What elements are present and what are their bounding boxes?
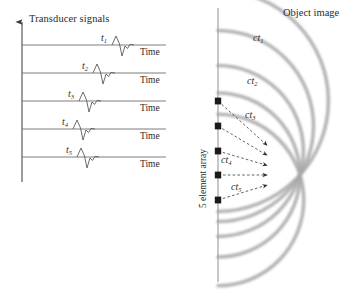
t-subscript: 2 bbox=[85, 65, 88, 72]
signal-pulse bbox=[112, 36, 134, 56]
ct-subscript: 4 bbox=[228, 159, 231, 166]
time-marker-label-1: t1 bbox=[101, 33, 107, 43]
ct-subscript: 3 bbox=[252, 114, 255, 121]
transducer-signals-svg bbox=[0, 0, 185, 290]
t-subscript: 5 bbox=[69, 149, 72, 156]
signal-pulse bbox=[77, 148, 99, 168]
signal-pulse bbox=[79, 92, 101, 112]
object-image-svg bbox=[185, 0, 358, 290]
ct-label-5: ct5 bbox=[231, 182, 241, 192]
ct-label-2: ct2 bbox=[247, 76, 257, 86]
ct-label-1: ct1 bbox=[253, 33, 263, 43]
ct-subscript: 5 bbox=[238, 186, 241, 193]
ct-label-4: ct4 bbox=[221, 155, 231, 165]
time-marker-label-5: t5 bbox=[66, 145, 72, 155]
ct-subscript: 2 bbox=[254, 80, 257, 87]
object-image-label: Object image bbox=[283, 8, 339, 19]
array-element-4 bbox=[215, 172, 221, 179]
time-axis-label: Time bbox=[140, 76, 160, 86]
t-subscript: 1 bbox=[104, 37, 107, 44]
figure-root: Transducer signals t1Timet2Timet3Timet4T… bbox=[0, 0, 358, 290]
time-marker-label-3: t3 bbox=[68, 89, 74, 99]
ct-ray-5 bbox=[223, 185, 267, 199]
signal-pulse bbox=[73, 120, 95, 140]
array-element-2 bbox=[215, 123, 221, 130]
time-marker-label-2: t2 bbox=[82, 61, 88, 71]
time-axis-label: Time bbox=[140, 48, 160, 58]
time-marker-label-4: t4 bbox=[62, 117, 68, 127]
ct-subscript: 1 bbox=[260, 37, 263, 44]
transducer-signals-panel: Transducer signals t1Timet2Timet3Timet4T… bbox=[0, 0, 185, 290]
signal-pulse bbox=[93, 64, 115, 84]
wavefront-arcs-group bbox=[218, 0, 328, 286]
array-element-5 bbox=[215, 197, 221, 204]
time-axis-label: Time bbox=[140, 160, 160, 170]
ct-label-3: ct3 bbox=[245, 110, 255, 120]
t-subscript: 4 bbox=[65, 121, 68, 128]
time-axis-label: Time bbox=[140, 132, 160, 142]
ct-ray-2 bbox=[222, 129, 267, 156]
time-axis-label: Time bbox=[140, 104, 160, 114]
transducer-signals-title: Transducer signals bbox=[29, 14, 109, 25]
object-image-panel: Object image 5 element array ct1ct2ct3ct… bbox=[185, 0, 358, 290]
array-element-1 bbox=[215, 98, 221, 105]
t-subscript: 3 bbox=[71, 93, 74, 100]
array-label: 5 element array bbox=[199, 149, 209, 208]
